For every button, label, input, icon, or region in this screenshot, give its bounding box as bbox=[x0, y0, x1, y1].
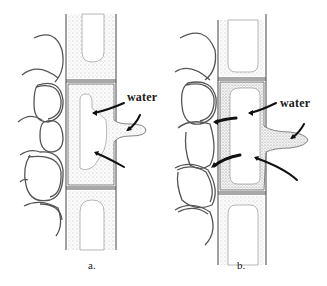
cortex-cells-b bbox=[175, 33, 216, 245]
panel-a bbox=[18, 14, 146, 250]
water-label-b: water bbox=[280, 96, 310, 111]
diagram-canvas bbox=[0, 0, 327, 286]
panel-label-a: a. bbox=[88, 259, 96, 271]
panel-b bbox=[175, 14, 308, 265]
panel-label-b: b. bbox=[237, 259, 245, 271]
cortex-cells-a bbox=[18, 35, 63, 236]
vacuole-b bbox=[230, 88, 260, 184]
water-label-a: water bbox=[127, 90, 157, 105]
